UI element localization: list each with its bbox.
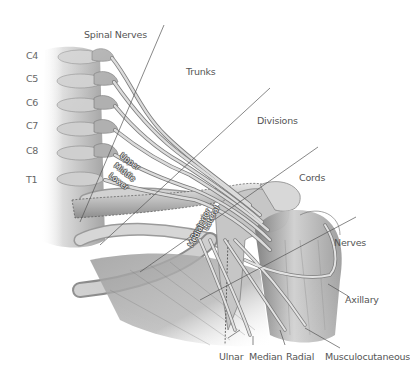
label-axillary: Axillary xyxy=(345,294,379,305)
label-spinal-nerves: Spinal Nerves xyxy=(84,29,147,40)
label-median: Median xyxy=(249,351,282,362)
vertebra-label-t1: T1 xyxy=(26,174,37,185)
vertebra-label-c4: C4 xyxy=(26,50,38,61)
vertebra-label-c5: C5 xyxy=(26,73,38,84)
vertebra-label-c6: C6 xyxy=(26,97,38,108)
label-radial: Radial xyxy=(286,351,314,362)
label-cords: Cords xyxy=(299,172,325,183)
label-ulnar: Ulnar xyxy=(219,351,243,362)
vertebra-label-c7: C7 xyxy=(26,120,38,131)
label-musculocutaneous: Musculocutaneous xyxy=(325,351,410,362)
label-nerves: Nerves xyxy=(334,237,366,248)
label-divisions: Divisions xyxy=(257,115,298,126)
label-trunks: Trunks xyxy=(186,66,216,77)
vertebra-label-c8: C8 xyxy=(26,145,38,156)
